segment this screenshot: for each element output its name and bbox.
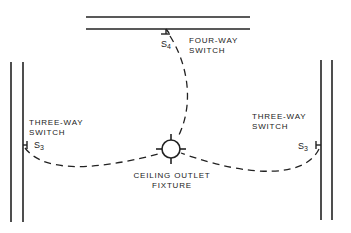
label-line: SWITCH: [252, 122, 306, 132]
symbol-subscript: 3: [40, 144, 44, 151]
label-line: CEILING OUTLET: [128, 171, 216, 181]
symbol-subscript: 3: [304, 145, 308, 152]
left-three-way-switch-label: THREE-WAY SWITCH: [29, 118, 83, 138]
wire-four-way-to-fixture: [170, 36, 187, 139]
label-line: FIXTURE: [128, 181, 216, 191]
left-three-way-switch-symbol: S3: [34, 140, 44, 153]
label-line: SWITCH: [29, 128, 83, 138]
label-line: SWITCH: [189, 46, 238, 56]
right-wall: [321, 60, 332, 220]
left-wall: [11, 62, 23, 222]
four-way-switch-label: FOUR-WAY SWITCH: [189, 36, 238, 56]
right-three-way-switch-label: THREE-WAY SWITCH: [252, 112, 306, 132]
right-three-way-switch-symbol: S3: [298, 141, 308, 154]
symbol-subscript: 4: [167, 43, 171, 50]
label-line: FOUR-WAY: [189, 36, 238, 46]
top-wall: [86, 17, 250, 29]
ceiling-outlet-icon: [156, 134, 186, 164]
wiring-paths: [25, 36, 319, 171]
label-line: THREE-WAY: [252, 112, 306, 122]
ceiling-outlet-label: CEILING OUTLET FIXTURE: [128, 171, 216, 191]
wire-left-to-fixture: [25, 148, 162, 167]
four-way-switch-symbol: S4: [161, 39, 171, 52]
label-line: THREE-WAY: [29, 118, 83, 128]
